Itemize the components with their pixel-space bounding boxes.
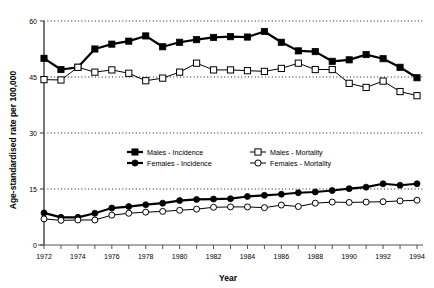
- data-point: [278, 39, 284, 45]
- data-point: [278, 65, 284, 71]
- data-point: [41, 210, 47, 216]
- x-tick-label: 1992: [375, 253, 391, 260]
- x-tick-label: 1988: [307, 253, 323, 260]
- data-point: [211, 196, 217, 202]
- data-point: [126, 38, 132, 44]
- data-point: [414, 93, 420, 99]
- data-point: [312, 66, 318, 72]
- data-point: [329, 66, 335, 72]
- data-point: [380, 78, 386, 84]
- data-point: [312, 49, 318, 55]
- data-point: [228, 196, 234, 202]
- data-point: [363, 84, 369, 90]
- data-point: [363, 52, 369, 58]
- data-point: [380, 56, 386, 62]
- data-point: [126, 204, 132, 210]
- data-point: [160, 75, 166, 81]
- x-tick-label: 1974: [70, 253, 86, 260]
- data-point: [177, 39, 183, 45]
- data-point: [363, 184, 369, 190]
- data-point: [295, 48, 301, 54]
- legend-label: Males - Mortality: [270, 148, 323, 157]
- data-point: [255, 149, 261, 155]
- y-tick-label: 15: [29, 186, 37, 193]
- data-point: [329, 199, 335, 205]
- data-point: [346, 80, 352, 86]
- x-tick-label: 1994: [409, 253, 425, 260]
- y-tick-label: 45: [29, 74, 37, 81]
- data-point: [244, 34, 250, 40]
- data-point: [278, 202, 284, 208]
- data-point: [228, 204, 234, 210]
- data-point: [346, 199, 352, 205]
- data-point: [312, 200, 318, 206]
- data-point: [160, 200, 166, 206]
- data-point: [244, 204, 250, 210]
- data-point: [397, 88, 403, 94]
- data-point: [329, 58, 335, 64]
- data-point: [58, 217, 64, 223]
- x-tick-label: 1990: [341, 253, 357, 260]
- data-point: [244, 68, 250, 74]
- x-tick-label: 1980: [172, 253, 188, 260]
- line-chart: 015304560 197219741976197819801982198419…: [0, 0, 434, 288]
- y-tick-label: 60: [29, 18, 37, 25]
- data-point: [160, 208, 166, 214]
- data-point: [41, 216, 47, 222]
- data-point: [295, 204, 301, 210]
- data-point: [295, 190, 301, 196]
- data-point: [143, 202, 149, 208]
- data-point: [160, 44, 166, 50]
- data-point: [58, 77, 64, 83]
- data-point: [397, 198, 403, 204]
- data-point: [194, 206, 200, 212]
- legend-item: Males - Mortality: [250, 148, 323, 157]
- data-point: [126, 210, 132, 216]
- data-point: [41, 77, 47, 83]
- data-point: [227, 67, 233, 73]
- chart-container: 015304560 197219741976197819801982198419…: [0, 0, 434, 288]
- data-point: [414, 197, 420, 203]
- data-point: [132, 160, 138, 166]
- data-point: [244, 193, 250, 199]
- data-point: [255, 160, 261, 166]
- data-point: [380, 199, 386, 205]
- y-tick-label: 30: [29, 130, 37, 137]
- data-point: [75, 64, 81, 70]
- data-point: [210, 34, 216, 40]
- data-point: [261, 205, 267, 211]
- data-point: [75, 217, 81, 223]
- data-point: [414, 181, 420, 187]
- data-point: [92, 210, 98, 216]
- y-tick-label: 0: [33, 242, 37, 249]
- data-point: [295, 60, 301, 66]
- data-point: [210, 67, 216, 73]
- data-point: [261, 68, 267, 74]
- data-point: [261, 28, 267, 34]
- data-point: [143, 33, 149, 39]
- data-point: [109, 205, 115, 211]
- data-point: [312, 189, 318, 195]
- data-point: [261, 192, 267, 198]
- data-point: [329, 187, 335, 193]
- data-point: [227, 34, 233, 40]
- data-point: [92, 69, 98, 75]
- data-point: [193, 60, 199, 66]
- data-point: [41, 55, 47, 61]
- legend-item: Males - Incidence: [127, 148, 203, 157]
- data-point: [346, 186, 352, 192]
- data-point: [92, 217, 98, 223]
- data-point: [278, 191, 284, 197]
- data-point: [143, 209, 149, 215]
- data-point: [193, 37, 199, 43]
- x-tick-label: 1986: [274, 253, 290, 260]
- data-point: [414, 75, 420, 81]
- data-point: [177, 69, 183, 75]
- x-tick-label: 1972: [36, 253, 52, 260]
- legend-label: Females - Mortality: [270, 159, 332, 168]
- legend-label: Males - Incidence: [147, 148, 203, 157]
- data-point: [58, 66, 64, 72]
- data-point: [397, 182, 403, 188]
- data-point: [380, 181, 386, 187]
- x-axis-label: Year: [219, 273, 238, 283]
